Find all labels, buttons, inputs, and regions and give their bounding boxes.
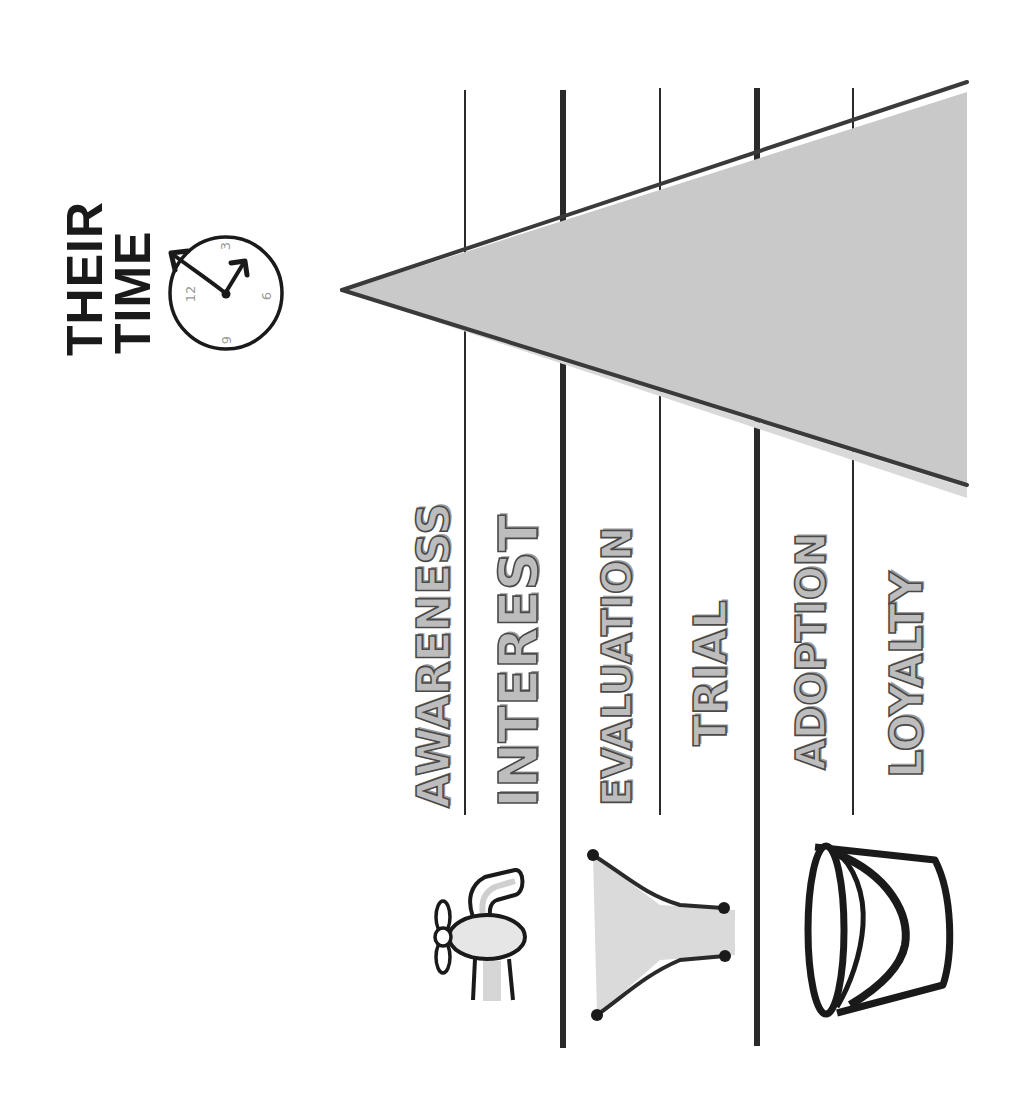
divider-awareness-interest [464, 90, 466, 815]
clock-number-3: 3 [218, 242, 233, 250]
clock-number-12: 12 [183, 286, 198, 303]
clock-icon: 12 3 6 9 [161, 228, 291, 358]
title-time: TIME [108, 231, 158, 354]
stage-interest: INTEREST [492, 515, 546, 808]
clock-number-6: 6 [259, 292, 274, 300]
divider-evaluation-trial [659, 88, 661, 815]
stage-trial: TRIAL [688, 600, 733, 746]
clock-number-9: 9 [219, 336, 234, 344]
stage-awareness: AWARENESS [412, 503, 456, 808]
divider-adoption-loyalty [852, 88, 854, 815]
stage-evaluation: EVALUATION [597, 527, 637, 806]
funnel-icon [585, 845, 755, 1015]
divider-tap-funnel [560, 90, 566, 1048]
bucket-icon [795, 835, 965, 1015]
stage-loyalty: LOYALTY [885, 571, 929, 778]
tap-icon [415, 845, 535, 1005]
stage-adoption: ADOPTION [791, 533, 831, 770]
title-their: THEIR [60, 201, 110, 356]
